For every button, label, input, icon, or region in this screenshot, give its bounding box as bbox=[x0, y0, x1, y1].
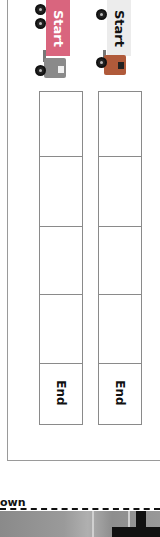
photo-strip bbox=[0, 511, 160, 537]
sequence-cell[interactable] bbox=[99, 156, 141, 226]
wheel-icon bbox=[96, 9, 107, 20]
truck-trailer: Start bbox=[46, 0, 70, 56]
truck-window bbox=[58, 66, 64, 73]
sequence-cell[interactable] bbox=[99, 226, 141, 294]
wheel-icon bbox=[96, 57, 107, 68]
start-label: Start bbox=[112, 10, 127, 47]
sequence-cell[interactable] bbox=[99, 294, 141, 363]
truck-window bbox=[118, 62, 124, 69]
start-truck-1: Start bbox=[34, 0, 72, 80]
cut-line bbox=[0, 508, 160, 510]
sequence-cell[interactable] bbox=[40, 156, 82, 226]
start-truck-2: Start bbox=[94, 0, 132, 80]
wheel-icon bbox=[35, 65, 46, 76]
sequence-cell[interactable] bbox=[99, 92, 141, 156]
wheel-icon bbox=[35, 18, 46, 29]
sequence-column-1: End bbox=[39, 91, 83, 425]
end-label: End bbox=[54, 380, 68, 405]
sequence-cell[interactable] bbox=[40, 92, 82, 156]
photo-detail bbox=[112, 527, 160, 537]
wheel-icon bbox=[35, 4, 46, 15]
sequence-column-2: End bbox=[98, 91, 142, 425]
sequence-cell[interactable] bbox=[40, 226, 82, 294]
start-label: Start bbox=[51, 10, 66, 47]
truck-trailer: Start bbox=[107, 0, 131, 56]
end-label: End bbox=[113, 380, 127, 405]
sequence-cell[interactable] bbox=[40, 294, 82, 363]
photo-detail bbox=[92, 511, 94, 537]
